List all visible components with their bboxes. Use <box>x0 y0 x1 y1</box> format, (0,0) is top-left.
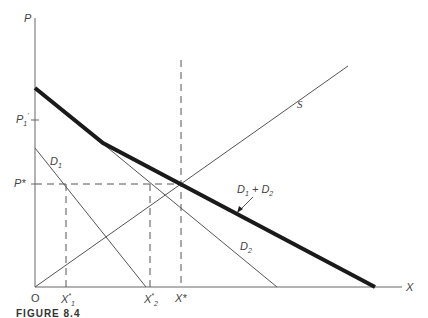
sum-demand-curve <box>35 88 375 287</box>
sum-label: D1 + D2 <box>237 183 273 197</box>
origin-label: O <box>31 292 40 304</box>
figure-caption: FIGURE 8.4 <box>16 308 80 318</box>
y-axis-label: P <box>24 12 31 24</box>
x-axis-label: X <box>406 281 413 293</box>
d2-label: D2 <box>240 240 252 254</box>
d1-label: D1 <box>50 155 62 169</box>
arrowhead-icon <box>237 206 243 213</box>
x2-star-label: X*2 <box>144 292 158 307</box>
x-star-label: X* <box>175 292 187 304</box>
p1-prime-label: P1' <box>16 112 29 127</box>
sum-label-arrow <box>240 197 253 210</box>
p-star-label: P* <box>14 177 26 189</box>
x1-star-label: X*1 <box>61 292 75 307</box>
supply-label: S <box>297 98 303 110</box>
supply-demand-diagram <box>0 0 428 318</box>
